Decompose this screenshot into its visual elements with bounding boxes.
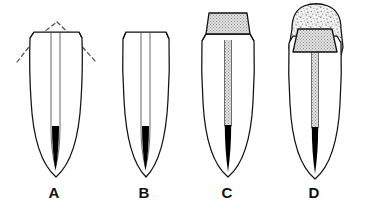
post-core-d — [293, 29, 337, 52]
panel-label-row: A B C D — [0, 184, 371, 206]
post-core-c — [206, 13, 250, 34]
panel-label-d: D — [302, 184, 326, 202]
panel-label-b: B — [132, 184, 156, 202]
cast-post-c — [225, 34, 232, 126]
tooth-restoration-figure — [0, 0, 371, 211]
panel-label-a: A — [42, 184, 66, 202]
panel-label-c: C — [215, 184, 239, 202]
